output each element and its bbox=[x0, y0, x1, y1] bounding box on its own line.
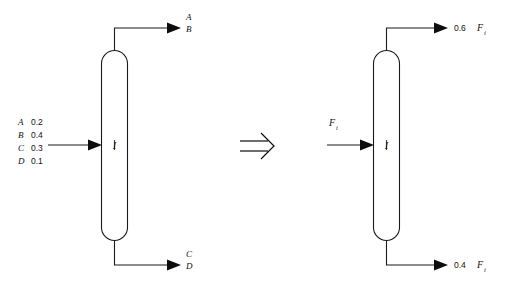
feed-component-d: D bbox=[17, 156, 25, 166]
feed-component-a: A bbox=[17, 117, 24, 127]
feed-component-b: B bbox=[18, 130, 24, 140]
process-flow-diagram: I A 0.2 B 0.4 C 0.3 D 0.1 A B C D bbox=[0, 0, 510, 293]
right-column-unit-label: I bbox=[384, 140, 389, 151]
top-product-component-2: B bbox=[186, 24, 192, 34]
right-top-product-symbol: F bbox=[476, 22, 484, 33]
left-bottom-product-arrowhead bbox=[167, 260, 181, 271]
feed-fraction-b: 0.4 bbox=[31, 130, 43, 140]
figure-canvas: I A 0.2 B 0.4 C 0.3 D 0.1 A B C D bbox=[0, 0, 510, 293]
left-bottom-product-label: C D bbox=[185, 249, 193, 271]
left-column-group: I A 0.2 B 0.4 C 0.3 D 0.1 A B C D bbox=[17, 12, 193, 271]
left-top-product-label: A B bbox=[185, 12, 192, 34]
left-top-product-arrowhead bbox=[167, 23, 181, 34]
right-bottom-product-symbol: F bbox=[476, 259, 484, 270]
feed-fraction-a: 0.2 bbox=[31, 117, 43, 127]
left-bottom-product-pipe bbox=[115, 241, 168, 265]
right-feed-label: F i bbox=[328, 117, 338, 131]
right-feed-symbol: F bbox=[328, 117, 336, 128]
left-top-product-pipe bbox=[115, 28, 168, 50]
left-feed-composition-block: A 0.2 B 0.4 C 0.3 D 0.1 bbox=[17, 117, 43, 166]
right-top-product-arrowhead bbox=[434, 23, 448, 34]
right-bottom-product-arrowhead bbox=[434, 260, 448, 271]
bottom-product-component-2: D bbox=[185, 261, 193, 271]
right-column-group: I F i 0.6 F i 0.4 F i bbox=[327, 22, 486, 273]
right-top-product-label: 0.6 F i bbox=[454, 22, 486, 36]
right-bottom-product-subscript: i bbox=[484, 266, 486, 273]
feed-component-c: C bbox=[18, 143, 25, 153]
right-bottom-product-value: 0.4 bbox=[454, 260, 466, 270]
feed-fraction-d: 0.1 bbox=[31, 156, 43, 166]
right-feed-arrowhead bbox=[360, 140, 374, 151]
right-bottom-product-label: 0.4 F i bbox=[454, 259, 486, 273]
implies-double-arrow-icon bbox=[240, 133, 274, 159]
top-product-component-1: A bbox=[185, 12, 192, 22]
left-column-unit-label: I bbox=[112, 140, 117, 151]
right-bottom-product-pipe bbox=[387, 241, 435, 265]
right-top-product-pipe bbox=[387, 28, 435, 50]
right-top-product-subscript: i bbox=[484, 29, 486, 36]
left-feed-arrowhead bbox=[88, 140, 102, 151]
feed-fraction-c: 0.3 bbox=[31, 143, 43, 153]
right-top-product-value: 0.6 bbox=[454, 23, 466, 33]
bottom-product-component-1: C bbox=[186, 249, 193, 259]
right-feed-subscript: i bbox=[336, 124, 338, 131]
